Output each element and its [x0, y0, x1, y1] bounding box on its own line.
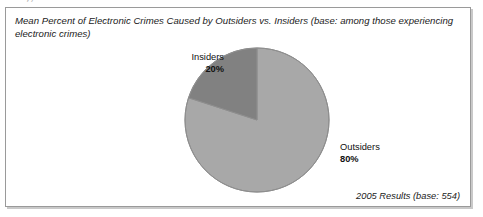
pie-label-insiders-name: Insiders — [156, 52, 224, 64]
pie-label-outsiders-name: Outsiders — [340, 142, 430, 154]
clipped-text-remnant: y) — [26, 0, 66, 2]
pie-label-insiders-value: 20% — [156, 64, 224, 76]
pie-label-outsiders-value: 80% — [340, 154, 430, 166]
pie-label-outsiders: Outsiders 80% — [340, 142, 430, 165]
pie-label-insiders: Insiders 20% — [156, 52, 224, 75]
chart-panel: Mean Percent of Electronic Crimes Caused… — [5, 7, 471, 207]
plot-area: Insiders 20% Outsiders 80% — [6, 8, 472, 208]
chart-footnote: 2005 Results (base: 554) — [356, 191, 460, 201]
